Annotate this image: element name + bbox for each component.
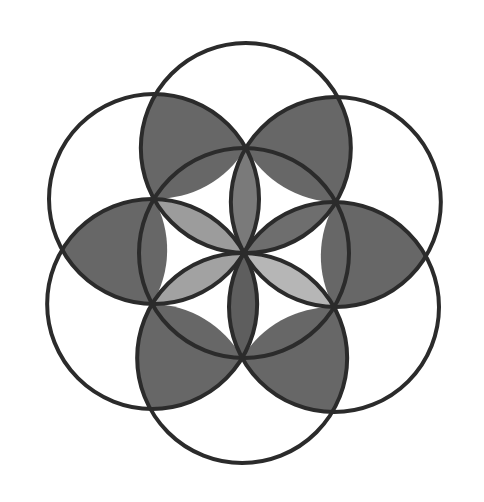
outer-region-upper-left <box>141 94 246 199</box>
seed-of-life-diagram <box>0 0 484 502</box>
outer-region-right <box>321 202 426 307</box>
outer-region-left <box>62 199 167 304</box>
outer-region-lower-right <box>242 307 347 412</box>
